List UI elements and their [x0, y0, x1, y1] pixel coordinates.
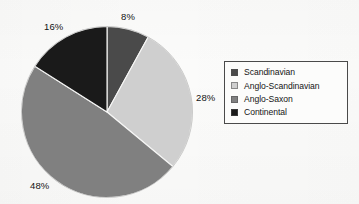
data-label-continental: 16% [44, 22, 63, 32]
legend-label-continental: Continental [244, 108, 287, 117]
legend-label-scandinavian: Scandinavian [244, 68, 295, 77]
chart-legend: Scandinavian Anglo-Scandinavian Anglo-Sa… [224, 61, 348, 124]
pie-chart-plot-area [21, 26, 193, 198]
pie-slice-group [22, 27, 193, 198]
pie-chart-figure: 8% 28% 48% 16% Scandinavian Anglo-Scandi… [0, 0, 359, 204]
legend-swatch-icon-scandinavian [231, 69, 238, 76]
legend-item-anglo-scandinavian: Anglo-Scandinavian [231, 79, 342, 92]
legend-item-anglo-saxon: Anglo-Saxon [231, 93, 342, 106]
legend-item-scandinavian: Scandinavian [231, 66, 342, 79]
data-label-scandinavian: 8% [121, 12, 135, 22]
legend-label-anglo-saxon: Anglo-Saxon [244, 95, 293, 104]
data-label-anglo-scandinavian: 28% [196, 93, 215, 103]
legend-swatch-icon-anglo-scandinavian [231, 82, 238, 89]
pie-svg [21, 26, 193, 198]
data-label-anglo-saxon: 48% [30, 181, 49, 191]
legend-item-continental: Continental [231, 106, 342, 119]
legend-label-anglo-scandinavian: Anglo-Scandinavian [244, 82, 320, 91]
legend-swatch-icon-continental [231, 109, 238, 116]
legend-swatch-icon-anglo-saxon [231, 96, 238, 103]
